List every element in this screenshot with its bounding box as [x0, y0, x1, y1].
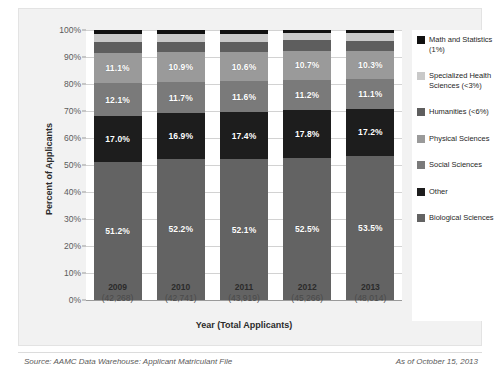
bar-segment-social-sciences[interactable]: 11.7%	[157, 82, 205, 114]
legend-label: Physical Sciences	[429, 134, 489, 144]
y-tick-label: 0%	[69, 295, 81, 305]
x-tick-year: 2013	[338, 282, 402, 292]
y-tick-mark	[82, 273, 86, 274]
bar-segment-specialized-health-sciences[interactable]	[346, 33, 394, 41]
legend-item-humanities[interactable]: Humanities (<6%)	[417, 107, 494, 117]
legend-swatch-icon	[417, 108, 425, 116]
bar-segment-specialized-health-sciences[interactable]	[157, 34, 205, 42]
y-tick-label: 40%	[64, 187, 81, 197]
legend-label: Biological Sciences	[429, 213, 494, 223]
bar-segment-other[interactable]: 16.9%	[157, 113, 205, 159]
legend-label: Specialized Health Sciences (<3%)	[429, 71, 494, 90]
y-tick-label: 50%	[64, 160, 81, 170]
segment-value-label: 10.9%	[168, 62, 193, 72]
y-tick-label: 90%	[64, 52, 81, 62]
legend-item-physical-sciences[interactable]: Physical Sciences	[417, 134, 494, 144]
segment-value-label: 52.2%	[168, 224, 193, 234]
legend-item-specialized-health-sciences[interactable]: Specialized Health Sciences (<3%)	[417, 71, 494, 90]
segment-value-label: 11.1%	[106, 63, 130, 73]
segment-value-label: 11.7%	[169, 93, 193, 103]
segment-value-label: 10.7%	[295, 60, 320, 70]
legend-item-biological-sciences[interactable]: Biological Sciences	[417, 213, 494, 223]
as-of-note: As of October 15, 2013	[396, 357, 478, 366]
x-tick-total-applicants: (45,266)	[275, 293, 339, 303]
y-tick-label: 100%	[59, 25, 81, 35]
bar-2012[interactable]: 10.7%11.2%17.8%52.5%	[283, 30, 331, 300]
x-tick-total-applicants: (43,919)	[212, 293, 276, 303]
y-tick-mark	[82, 30, 86, 31]
y-tick-label: 60%	[64, 133, 81, 143]
y-tick-mark	[82, 138, 86, 139]
bar-2009[interactable]: 11.1%12.1%17.0%51.2%	[94, 30, 142, 300]
segment-value-label: 12.1%	[105, 95, 130, 105]
x-tick-total-applicants: (48,014)	[338, 293, 402, 303]
bar-segment-specialized-health-sciences[interactable]	[94, 34, 142, 42]
legend-item-social-sciences[interactable]: Social Sciences	[417, 160, 494, 170]
legend-label: Social Sciences	[429, 160, 482, 170]
legend-swatch-icon	[417, 214, 425, 222]
bar-segment-humanities[interactable]	[157, 42, 205, 53]
legend-item-other[interactable]: Other	[417, 187, 494, 197]
segment-value-label: 11.2%	[295, 90, 319, 100]
legend-item-math-statistics[interactable]: Math and Statistics (1%)	[417, 35, 494, 54]
legend-label: Humanities (<6%)	[429, 107, 489, 117]
plot-area: 100%90%80%70%60%50%40%30%20%10%0%11.1%12…	[86, 30, 402, 300]
bar-segment-other[interactable]: 17.4%	[220, 112, 268, 159]
bar-segment-humanities[interactable]	[346, 41, 394, 52]
y-axis-title: Percent of Applicants	[44, 123, 54, 215]
bar-2010[interactable]: 10.9%11.7%16.9%52.2%	[157, 30, 205, 300]
bar-segment-biological-sciences[interactable]: 51.2%	[94, 162, 142, 300]
x-tick-label-2013: 2013(48,014)	[338, 282, 402, 303]
x-tick-total-applicants: (42,741)	[149, 293, 213, 303]
y-tick-label: 20%	[64, 241, 81, 251]
x-tick-year: 2011	[212, 282, 276, 292]
segment-value-label: 17.8%	[295, 129, 320, 139]
y-tick-label: 30%	[64, 214, 81, 224]
x-tick-year: 2012	[275, 282, 339, 292]
bar-segment-social-sciences[interactable]: 11.6%	[220, 81, 268, 112]
bar-segment-humanities[interactable]	[94, 42, 142, 53]
bar-segment-biological-sciences[interactable]: 53.5%	[346, 156, 394, 300]
y-tick-mark	[82, 192, 86, 193]
y-tick-mark	[82, 165, 86, 166]
segment-value-label: 11.1%	[358, 89, 382, 99]
bar-segment-physical-sciences[interactable]: 10.3%	[346, 51, 394, 79]
x-tick-label-2010: 2010(42,741)	[149, 282, 213, 303]
bar-segment-humanities[interactable]	[220, 42, 268, 53]
bar-segment-physical-sciences[interactable]: 10.7%	[283, 51, 331, 80]
bar-2011[interactable]: 10.6%11.6%17.4%52.1%	[220, 30, 268, 300]
chart-legend: Math and Statistics (1%)Specialized Heal…	[412, 30, 498, 321]
y-tick-mark	[82, 111, 86, 112]
x-tick-label-2012: 2012(45,266)	[275, 282, 339, 303]
x-tick-year: 2010	[149, 282, 213, 292]
x-tick-label-2009: 2009(42,268)	[86, 282, 150, 303]
legend-swatch-icon	[417, 188, 425, 196]
bar-segment-specialized-health-sciences[interactable]	[283, 33, 331, 41]
segment-value-label: 52.5%	[295, 224, 320, 234]
bar-segment-other[interactable]: 17.0%	[94, 116, 142, 162]
bar-segment-social-sciences[interactable]: 12.1%	[94, 83, 142, 116]
bar-segment-humanities[interactable]	[283, 40, 331, 51]
bar-segment-physical-sciences[interactable]: 10.9%	[157, 52, 205, 81]
bar-segment-other[interactable]: 17.2%	[346, 109, 394, 155]
y-tick-mark	[82, 84, 86, 85]
x-tick-year: 2009	[86, 282, 150, 292]
legend-label: Other	[429, 187, 448, 197]
bar-segment-other[interactable]: 17.8%	[283, 110, 331, 158]
bar-2013[interactable]: 10.3%11.1%17.2%53.5%	[346, 30, 394, 300]
segment-value-label: 10.6%	[232, 62, 257, 72]
bar-segment-physical-sciences[interactable]: 10.6%	[220, 52, 268, 81]
bar-segment-social-sciences[interactable]: 11.2%	[283, 80, 331, 110]
bar-segment-biological-sciences[interactable]: 52.5%	[283, 158, 331, 300]
legend-swatch-icon	[417, 36, 425, 44]
bar-segment-physical-sciences[interactable]: 11.1%	[94, 53, 142, 83]
segment-value-label: 52.1%	[232, 225, 257, 235]
legend-swatch-icon	[417, 72, 425, 80]
bar-segment-biological-sciences[interactable]: 52.1%	[220, 159, 268, 300]
segment-value-label: 16.9%	[168, 131, 193, 141]
segment-value-label: 11.6%	[232, 92, 256, 102]
bar-segment-biological-sciences[interactable]: 52.2%	[157, 159, 205, 300]
bar-segment-specialized-health-sciences[interactable]	[220, 34, 268, 42]
cut-off-title	[30, 0, 360, 7]
bar-segment-social-sciences[interactable]: 11.1%	[346, 79, 394, 109]
